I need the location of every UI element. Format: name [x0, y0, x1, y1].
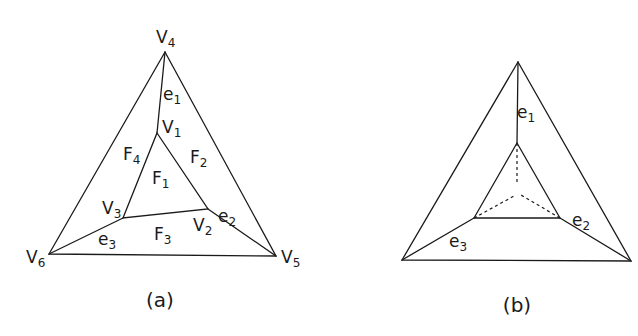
label-v6: V6 [26, 247, 45, 270]
label-v4: V4 [156, 27, 175, 50]
label-e2-a: e2 [218, 206, 236, 229]
label-v5: V5 [281, 247, 300, 270]
figure-container: V4 V1 V3 V2 V6 V5 F4 F2 F1 F3 e1 e2 e3 (… [0, 0, 638, 336]
label-f3: F3 [154, 224, 171, 247]
figure-a: V4 V1 V3 V2 V6 V5 F4 F2 F1 F3 e1 e2 e3 (… [26, 27, 300, 312]
label-f4: F4 [123, 144, 140, 167]
label-e3-b: e3 [449, 231, 467, 254]
label-e1-b: e1 [517, 102, 535, 125]
label-e2-b: e2 [572, 210, 590, 233]
figure-b: e1 e2 e3 (b) [402, 62, 631, 317]
label-f1: F1 [152, 168, 169, 191]
label-e1-a: e1 [163, 84, 181, 107]
label-v3: V3 [102, 198, 121, 221]
caption-b: (b) [503, 293, 531, 317]
label-e3-a: e3 [98, 229, 116, 252]
label-v2: V2 [193, 215, 212, 238]
inner-triangle-a [123, 133, 208, 218]
caption-a: (a) [146, 288, 174, 312]
label-f2: F2 [190, 147, 207, 170]
edge-e2-b [560, 218, 631, 261]
label-v1: V1 [162, 117, 181, 140]
